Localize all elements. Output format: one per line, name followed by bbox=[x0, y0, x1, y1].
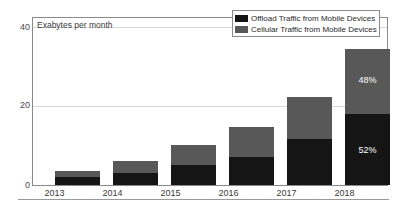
bar-segment-cellular-2018[interactable]: 48% bbox=[345, 49, 390, 114]
y-tick-label-40: 40 bbox=[4, 23, 30, 32]
legend-label-cellular: Cellular Traffic from Mobile Devices bbox=[251, 25, 377, 34]
x-tick-label-2014: 2014 bbox=[90, 188, 135, 199]
x-tick-label-2015: 2015 bbox=[148, 188, 193, 199]
plot-area: Exabytes per month bbox=[32, 17, 388, 186]
bar-segment-cellular-2017[interactable] bbox=[287, 97, 332, 139]
bar-segment-offload-2015[interactable] bbox=[171, 165, 216, 185]
x-tick-label-2013: 2013 bbox=[32, 188, 77, 199]
y-tick-label-20: 20 bbox=[4, 101, 30, 110]
x-tick-label-2018: 2018 bbox=[322, 188, 367, 199]
percent-label-cellular-2018: 48% bbox=[345, 75, 390, 85]
bar-group-2018[interactable]: 48% 52% bbox=[345, 49, 390, 185]
bar-group-2015[interactable] bbox=[171, 145, 216, 185]
legend-swatch-icon-cellular bbox=[235, 26, 248, 33]
legend-item-cellular[interactable]: Cellular Traffic from Mobile Devices bbox=[235, 24, 377, 34]
x-tick-label-2016: 2016 bbox=[206, 188, 251, 199]
bar-group-2013[interactable] bbox=[55, 171, 100, 185]
bar-segment-offload-2014[interactable] bbox=[113, 173, 158, 185]
x-tick-label-2017: 2017 bbox=[264, 188, 309, 199]
legend-item-offload[interactable]: Offload Traffic from Mobile Devices bbox=[235, 13, 377, 23]
y-axis: 40 20 0 bbox=[0, 0, 30, 216]
bar-segment-offload-2016[interactable] bbox=[229, 157, 274, 185]
legend-label-offload: Offload Traffic from Mobile Devices bbox=[251, 14, 375, 23]
bar-segment-offload-2018[interactable]: 52% bbox=[345, 114, 390, 185]
legend: Offload Traffic from Mobile Devices Cell… bbox=[232, 10, 380, 37]
bars-layer: 48% 52% bbox=[33, 18, 387, 185]
bar-group-2016[interactable] bbox=[229, 127, 274, 185]
bottom-rule bbox=[18, 199, 389, 200]
bar-segment-offload-2017[interactable] bbox=[287, 139, 332, 185]
bar-group-2017[interactable] bbox=[287, 97, 332, 185]
bar-segment-cellular-2016[interactable] bbox=[229, 127, 274, 157]
legend-swatch-icon-offload bbox=[235, 15, 248, 22]
x-axis: 2013 2014 2015 2016 2017 2018 bbox=[0, 188, 401, 204]
percent-label-offload-2018: 52% bbox=[345, 145, 390, 155]
stacked-bar-chart: 40 20 0 Exabytes per month bbox=[0, 0, 401, 216]
bar-segment-cellular-2015[interactable] bbox=[171, 145, 216, 165]
bar-segment-offload-2013[interactable] bbox=[55, 177, 100, 185]
bar-segment-cellular-2014[interactable] bbox=[113, 161, 158, 173]
bar-group-2014[interactable] bbox=[113, 161, 158, 185]
